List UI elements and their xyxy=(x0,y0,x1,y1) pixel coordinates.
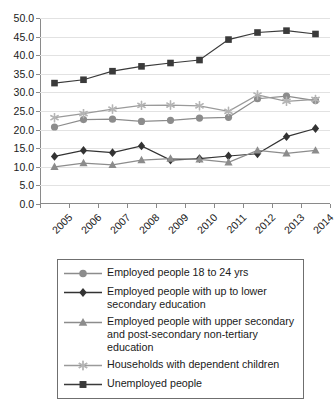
legend-item: Employed people with up to lower seconda… xyxy=(63,285,298,311)
x-tick-label: 2011 xyxy=(224,211,248,235)
x-tick-mark xyxy=(301,204,302,208)
data-point xyxy=(51,152,58,161)
y-tick-label: 25.0 xyxy=(14,105,34,117)
x-tick-label: 2009 xyxy=(165,211,190,236)
legend-marker-square-icon xyxy=(63,377,103,392)
y-tick-label: 10.0 xyxy=(14,161,34,173)
series-1 xyxy=(51,93,319,131)
y-tick-label: 35.0 xyxy=(14,68,34,80)
data-point xyxy=(196,114,203,121)
data-point xyxy=(312,31,319,38)
x-tick-label: 2006 xyxy=(78,211,103,236)
x-tick-mark xyxy=(272,204,273,208)
series-line xyxy=(55,150,316,166)
x-tick-label: 2014 xyxy=(310,211,335,236)
x-tick-mark xyxy=(127,204,128,208)
series-layer xyxy=(40,18,330,204)
data-point xyxy=(311,146,319,153)
data-point xyxy=(109,148,116,157)
data-point xyxy=(253,146,261,153)
y-tick-label: 15.0 xyxy=(14,142,34,154)
x-tick-mark xyxy=(330,204,331,208)
legend-item: Unemployed people xyxy=(63,377,298,392)
series-line xyxy=(55,128,316,160)
series-3 xyxy=(50,146,319,170)
data-point xyxy=(138,142,145,151)
data-point xyxy=(167,60,174,67)
data-point xyxy=(109,116,116,123)
data-point xyxy=(312,124,319,133)
x-tick-label: 2012 xyxy=(252,211,277,236)
legend-item-label: Employed people with upper secondary and… xyxy=(103,315,298,354)
data-point xyxy=(254,29,261,36)
data-point xyxy=(225,36,232,43)
legend-marker-star-icon xyxy=(63,358,103,373)
data-point xyxy=(51,123,58,130)
series-line xyxy=(55,95,316,118)
legend-item-label: Employed people 18 to 24 yrs xyxy=(103,266,248,279)
y-tick-label: 40.0 xyxy=(14,49,34,61)
y-tick-label: 20.0 xyxy=(14,124,34,136)
data-point xyxy=(138,63,145,70)
data-point xyxy=(80,76,87,83)
legend-marker-diamond-icon xyxy=(63,285,103,300)
x-tick-mark xyxy=(243,204,244,208)
y-tick-label: 5.0 xyxy=(19,179,34,191)
data-point xyxy=(167,117,174,124)
legend-marker-circle-icon xyxy=(63,266,103,281)
y-tick-label: 45.0 xyxy=(14,31,34,43)
x-tick-mark xyxy=(40,204,41,208)
legend-item-label: Households with dependent children xyxy=(103,358,279,371)
legend-item-label: Employed people with up to lower seconda… xyxy=(103,285,298,311)
data-point xyxy=(166,154,174,161)
y-tick-label: 50.0 xyxy=(14,12,34,24)
data-point xyxy=(196,57,203,64)
series-line xyxy=(55,31,316,83)
chart-legend: Employed people 18 to 24 yrsEmployed peo… xyxy=(57,259,304,399)
data-point xyxy=(51,80,58,87)
legend-item: Households with dependent children xyxy=(63,358,298,373)
x-tick-label: 2013 xyxy=(281,211,306,236)
x-tick-label: 2007 xyxy=(107,211,132,236)
x-tick-mark xyxy=(214,204,215,208)
legend-item: Employed people 18 to 24 yrs xyxy=(63,266,298,281)
data-point xyxy=(283,27,290,34)
data-point xyxy=(109,68,116,75)
data-point xyxy=(80,146,87,155)
x-tick-label: 2005 xyxy=(49,211,74,236)
plot-area: 0.05.010.015.020.025.030.035.040.045.050… xyxy=(40,18,330,204)
data-point xyxy=(138,118,145,125)
series-5 xyxy=(51,27,319,86)
data-point xyxy=(79,159,87,166)
x-tick-mark xyxy=(156,204,157,208)
x-tick-mark xyxy=(69,204,70,208)
x-tick-mark xyxy=(98,204,99,208)
legend-item: Employed people with upper secondary and… xyxy=(63,315,298,354)
legend-marker-triangle-icon xyxy=(63,315,103,330)
series-4 xyxy=(51,90,320,122)
x-tick-label: 2010 xyxy=(194,211,219,236)
legend-item-label: Unemployed people xyxy=(103,377,202,390)
data-point xyxy=(283,132,290,141)
x-tick-label: 2008 xyxy=(136,211,161,236)
y-tick-label: 0.0 xyxy=(19,198,34,210)
x-tick-mark xyxy=(185,204,186,208)
y-tick-label: 30.0 xyxy=(14,86,34,98)
